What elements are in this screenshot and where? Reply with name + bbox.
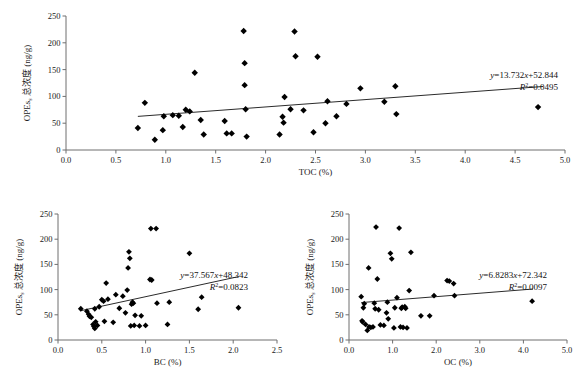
y-tick-label: 200 [331, 234, 344, 244]
data-point [366, 265, 372, 271]
data-point [242, 106, 248, 112]
svg-text:OPEss 总浓度 (ng/g): OPEss 总浓度 (ng/g) [304, 239, 316, 315]
x-tick-label: 2.5 [310, 155, 321, 165]
x-tick-label: 0.0 [53, 345, 64, 355]
data-point [389, 256, 395, 262]
x-tick-label: 1.0 [387, 345, 398, 355]
data-point [374, 276, 380, 282]
data-point [373, 224, 379, 230]
y-tick-label: 250 [48, 11, 61, 21]
svg-text:OPEss 总浓度 (ng/g): OPEss 总浓度 (ng/g) [21, 45, 33, 121]
data-point [314, 54, 320, 60]
y-tick-label: 200 [40, 234, 53, 244]
y-tick-label: 50 [44, 310, 53, 320]
data-point [431, 293, 437, 299]
x-tick-label: 4.0 [460, 155, 471, 165]
data-point [276, 131, 282, 137]
y-tick-label: 200 [48, 38, 61, 48]
data-point [357, 85, 363, 91]
data-point [392, 83, 398, 89]
data-point [192, 70, 198, 76]
chart-panel-bc: 0501001502002500.00.51.01.52.02.5BC (%)O… [0, 196, 291, 386]
x-tick-label: 2.0 [228, 345, 239, 355]
data-point [358, 294, 364, 300]
data-point [160, 127, 166, 133]
data-point [152, 137, 158, 143]
data-point [384, 310, 390, 316]
data-point [240, 28, 246, 34]
x-tick-label: 3.0 [474, 345, 485, 355]
data-point [126, 249, 132, 255]
data-point [452, 293, 458, 299]
data-point [127, 255, 133, 261]
data-point [324, 98, 330, 104]
x-tick-label: 1.0 [140, 345, 151, 355]
data-point [427, 313, 433, 319]
data-point [280, 119, 286, 125]
x-tick-label: 2.0 [431, 345, 442, 355]
y-tick-label: 150 [48, 65, 61, 75]
data-point [153, 226, 159, 232]
y-tick-label: 150 [331, 259, 344, 269]
plot-area-bc: 0501001502002500.00.51.01.52.02.5BC (%)O… [0, 196, 291, 386]
data-point [131, 322, 137, 328]
data-point [166, 299, 172, 305]
data-point [279, 114, 285, 120]
y-axis-title: OPEss 总浓度 (ng/g) [13, 239, 25, 315]
chart-panel-toc: 0501001502002500.00.51.01.52.02.53.03.54… [0, 0, 581, 196]
y-tick-label: 50 [52, 118, 61, 128]
data-point [333, 113, 339, 119]
data-point [116, 305, 122, 311]
data-point [287, 106, 293, 112]
data-point [195, 306, 201, 312]
x-tick-label: 1.0 [160, 155, 171, 165]
data-point [113, 292, 119, 298]
data-point [201, 131, 207, 137]
data-point [124, 287, 130, 293]
x-tick-label: 1.5 [210, 155, 221, 165]
data-point [241, 82, 247, 88]
r-squared-value: R2=0.0495 [519, 82, 559, 92]
data-point [381, 322, 387, 328]
data-point [123, 310, 129, 316]
x-tick-label: 5.0 [562, 345, 573, 355]
x-tick-label: 4.5 [510, 155, 521, 165]
y-tick-label: 250 [40, 209, 53, 219]
y-tick-label: 0 [48, 335, 52, 345]
y-tick-label: 50 [335, 310, 344, 320]
data-point [143, 322, 149, 328]
data-point [138, 313, 144, 319]
data-point [393, 111, 399, 117]
data-point [322, 120, 328, 126]
data-point [310, 129, 316, 135]
data-point [396, 225, 402, 231]
x-axis-title: OC (%) [444, 357, 472, 367]
x-tick-label: 5.0 [560, 155, 571, 165]
svg-text:OPEss 总浓度 (ng/g): OPEss 总浓度 (ng/g) [13, 239, 25, 315]
data-point [406, 288, 412, 294]
y-tick-label: 100 [40, 285, 53, 295]
y-axis-title: OPEss 总浓度 (ng/g) [21, 45, 33, 121]
data-point [103, 280, 109, 286]
data-point [388, 250, 394, 256]
data-point [392, 305, 398, 311]
data-point [381, 99, 387, 105]
regression-equation: y=37.567x+48.342 [179, 270, 248, 280]
equation-annotation-bc: y=37.567x+48.342R2=0.0823 [179, 270, 248, 292]
x-tick-label: 2.0 [260, 155, 271, 165]
data-point [198, 117, 204, 123]
x-tick-label: 4.0 [518, 345, 529, 355]
regression-line [138, 86, 543, 116]
x-tick-label: 0.0 [344, 345, 355, 355]
data-point [418, 313, 424, 319]
x-tick-label: 1.5 [184, 345, 195, 355]
data-point [281, 94, 287, 100]
regression-equation: y=13.732x+52.844 [489, 70, 558, 80]
y-tick-label: 100 [48, 91, 61, 101]
data-point [535, 104, 541, 110]
x-tick-label: 0.5 [111, 155, 122, 165]
data-point [228, 130, 234, 136]
y-tick-label: 250 [331, 209, 344, 219]
equation-annotation-toc: y=13.732x+52.844R2=0.0495 [489, 70, 558, 92]
data-point [408, 249, 414, 255]
